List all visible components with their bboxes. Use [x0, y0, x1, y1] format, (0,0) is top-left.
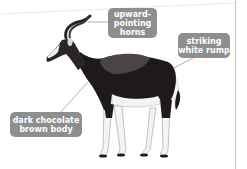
- label-rump-line-2: white rump: [178, 46, 230, 55]
- label-horns-line-1: upward-: [108, 10, 157, 19]
- page-gutter-line: [235, 0, 236, 169]
- label-body-line-1: dark chocolate: [10, 116, 82, 125]
- label-horns: upward- pointing horns: [108, 8, 157, 38]
- label-body: dark chocolate brown body: [10, 112, 82, 137]
- label-horns-line-3: horns: [108, 28, 157, 37]
- label-horns-line-2: pointing: [108, 19, 157, 28]
- label-rump: striking white rump: [178, 33, 230, 58]
- ear-shape: [68, 38, 73, 46]
- antelope-diagram: upward- pointing horns striking white ru…: [0, 0, 247, 169]
- label-rump-line-1: striking: [178, 37, 230, 46]
- label-body-line-2: brown body: [10, 125, 82, 134]
- body-leader-line: [60, 82, 88, 113]
